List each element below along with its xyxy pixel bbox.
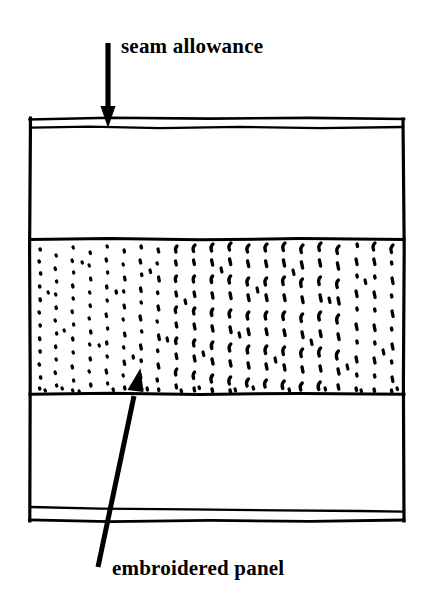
bottom-seam-allowance-line (31, 507, 403, 512)
embroidery-stitch-texture (39, 243, 398, 393)
embroidered-panel-arrow-head (128, 368, 144, 392)
embroidered-panel-top-edge (30, 238, 404, 239)
figure-canvas: seam allowance embroidered panel (0, 0, 423, 611)
embroidered-panel-label: embroidered panel (112, 556, 284, 581)
seam-allowance-arrow (101, 43, 116, 128)
fabric-left-edge (30, 118, 31, 521)
fabric-rectangle (30, 118, 405, 522)
fabric-bottom-edge (30, 520, 405, 522)
seam-allowance-label: seam allowance (121, 34, 263, 59)
embroidered-panel-arrow (98, 368, 144, 567)
embroidered-panel-bottom-edge (30, 393, 404, 394)
fabric-right-edge (403, 119, 404, 521)
embroidered-panel-arrow-shaft (98, 396, 134, 567)
fabric-top-edge (30, 118, 405, 120)
top-seam-allowance-line (31, 127, 403, 129)
sewing-pattern-diagram (0, 0, 423, 611)
